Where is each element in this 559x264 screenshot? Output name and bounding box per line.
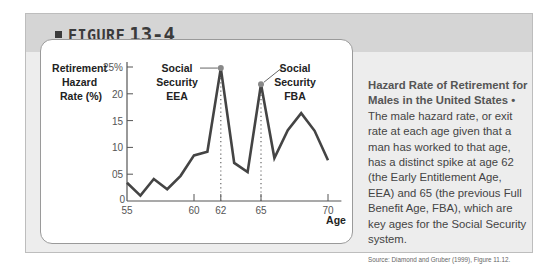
- annotation-line: Security: [274, 76, 316, 88]
- annotation-line: Social: [162, 62, 193, 74]
- peak-marker: [218, 65, 224, 71]
- annotation-line: FBA: [284, 90, 306, 102]
- y-tick-label: 20: [112, 89, 124, 100]
- annotation-line: Security: [156, 76, 198, 88]
- y-tick-label: 10: [112, 142, 124, 153]
- x-tick-label: 65: [255, 205, 267, 216]
- y-axis-label-line-2: Hazard: [62, 76, 97, 88]
- annotation-eea: SocialSecurityEEA: [156, 62, 198, 102]
- chart-annotations: SocialSecurityEEASocialSecurityFBA: [156, 62, 316, 102]
- y-tick-label: 0: [119, 194, 125, 205]
- y-tick-label: 05: [112, 169, 124, 180]
- y-tick-label: 15: [112, 116, 124, 127]
- x-axis-label: Age: [326, 214, 346, 226]
- y-axis-label-line-1: Retirement: [52, 62, 107, 74]
- y-axis-label-line-3: Rate (%): [60, 90, 102, 102]
- y-tick-label: 25%: [103, 62, 123, 73]
- y-axis-label: Retirement Hazard Rate (%): [52, 62, 110, 102]
- x-tick-label: 62: [215, 205, 227, 216]
- x-tick-label: 60: [188, 205, 200, 216]
- x-tick-label: 55: [121, 205, 133, 216]
- peak-marker: [258, 81, 264, 87]
- reference-lines: [221, 68, 261, 201]
- annotation-line: EEA: [166, 90, 188, 102]
- annotation-fba: SocialSecurityFBA: [274, 62, 316, 102]
- peak-markers: [218, 65, 264, 87]
- annotation-line: Social: [280, 62, 311, 74]
